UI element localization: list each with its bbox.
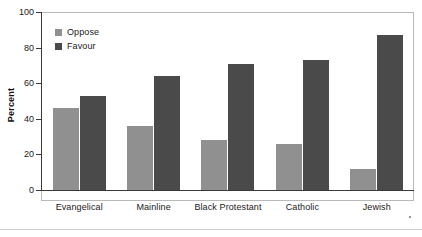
x-tick-label: Jewish [340, 202, 414, 212]
bar-oppose-jewish [350, 169, 376, 190]
corner-speck [409, 216, 411, 218]
x-tick-label: Black Protestant [191, 202, 265, 212]
x-tick-label: Catholic [265, 202, 339, 212]
y-tick-mark [36, 154, 41, 155]
bar-favour-jewish [377, 35, 403, 190]
y-tick-mark [36, 48, 41, 49]
y-tick-mark [36, 119, 41, 120]
bar-oppose-black-protestant [201, 140, 227, 190]
bar-group [116, 12, 190, 190]
bar-group [42, 12, 116, 190]
y-tick-mark [36, 190, 41, 191]
bar-group [191, 12, 265, 190]
bars-layer [42, 12, 414, 190]
bar-oppose-catholic [276, 144, 302, 190]
bar-favour-black-protestant [228, 64, 254, 190]
x-tick-label: Evangelical [42, 202, 116, 212]
y-tick-label: 80 [2, 44, 34, 53]
y-tick-label: 100 [2, 8, 34, 17]
bar-oppose-mainline [127, 126, 153, 190]
bottom-divider [0, 229, 422, 230]
bar-favour-evangelical [80, 96, 106, 190]
bar-favour-mainline [154, 76, 180, 190]
y-tick-label: 20 [2, 150, 34, 159]
bar-group [340, 12, 414, 190]
bar-group [265, 12, 339, 190]
bar-oppose-evangelical [53, 108, 79, 190]
y-tick-label: 0 [2, 186, 34, 195]
y-tick-mark [36, 12, 41, 13]
x-tick-label: Mainline [116, 202, 190, 212]
y-axis-title: Percent [6, 75, 16, 135]
x-axis-line [41, 190, 414, 191]
bar-chart-figure: 020406080100 Percent Oppose Favour Evang… [0, 0, 422, 237]
y-tick-mark [36, 83, 41, 84]
bar-favour-catholic [303, 60, 329, 190]
